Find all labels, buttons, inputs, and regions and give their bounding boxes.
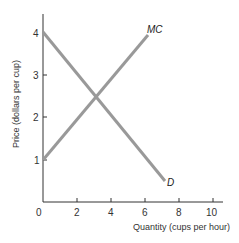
- x-tick-8: 8: [176, 207, 182, 218]
- d-label: D: [167, 177, 174, 188]
- x-ticks: [77, 198, 213, 202]
- y-axis-label: Price (dollars per cup): [11, 60, 21, 148]
- x-axis-label: Quantity (cups per hour): [133, 222, 230, 232]
- x-tick-4: 4: [108, 207, 114, 218]
- chart: 0 2 4 6 8 10 1 2 3 4 Quantity (cups per …: [0, 0, 239, 243]
- mc-label: MC: [147, 24, 163, 35]
- x-tick-0: 0: [36, 207, 42, 218]
- x-tick-6: 6: [142, 207, 148, 218]
- x-tick-2: 2: [74, 207, 80, 218]
- y-ticks: [43, 75, 47, 160]
- y-tick-2: 2: [33, 112, 39, 123]
- y-tick-3: 3: [33, 70, 39, 81]
- y-tick-4: 4: [33, 28, 39, 39]
- y-tick-1: 1: [34, 155, 40, 166]
- x-tick-10: 10: [206, 207, 218, 218]
- demand-curve: [43, 32, 165, 181]
